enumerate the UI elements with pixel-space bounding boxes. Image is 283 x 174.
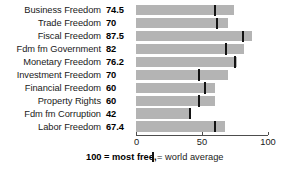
world-average-tick-icon — [214, 5, 216, 17]
row-label: Fdm fm Government — [17, 44, 101, 54]
row-label: Financial Freedom — [25, 83, 101, 93]
legend-most-free-note: 100 = most free, — [86, 152, 157, 163]
world-average-tick-icon — [189, 108, 191, 120]
axis-tick — [268, 132, 269, 135]
chart-row: Monetary Freedom76.2 — [0, 56, 283, 69]
axis-tick-label: 50 — [197, 137, 207, 147]
row-bar — [136, 44, 244, 54]
world-average-tick-icon — [204, 82, 206, 94]
row-bar-track — [136, 83, 268, 93]
row-value: 60 — [106, 83, 116, 93]
axis-tick-label: 100 — [260, 137, 276, 147]
row-label: Monetary Freedom — [23, 57, 101, 67]
row-bar-track — [136, 44, 268, 54]
row-bar — [136, 5, 234, 15]
row-bar-track — [136, 96, 268, 106]
x-axis: 050100 — [136, 135, 268, 136]
row-value: 60 — [106, 96, 116, 106]
row-label: Labor Freedom — [38, 122, 101, 132]
axis-tick — [202, 132, 203, 135]
row-value: 76.2 — [106, 57, 124, 67]
row-label: Business Freedom — [24, 5, 101, 15]
world-average-tick-icon — [214, 121, 216, 133]
world-average-tick-icon — [234, 56, 236, 68]
axis-tick-label: 0 — [134, 137, 139, 147]
world-average-tick-icon — [225, 43, 227, 55]
row-bar-track — [136, 70, 268, 80]
row-value: 42 — [106, 109, 116, 119]
chart-row: Fiscal Freedom87.5 — [0, 30, 283, 43]
row-bar-track — [136, 121, 268, 131]
row-value: 70 — [106, 18, 116, 28]
economic-freedom-bar-chart: Business Freedom74.5Trade Freedom70Fisca… — [0, 0, 283, 174]
legend-world-average-label: = world average — [157, 152, 223, 163]
row-value: 82 — [106, 44, 116, 54]
axis-tick — [136, 132, 137, 135]
row-bar-track — [136, 18, 268, 28]
chart-rows: Business Freedom74.5Trade Freedom70Fisca… — [0, 4, 283, 133]
chart-row: Financial Freedom60 — [0, 81, 283, 94]
row-bar-track — [136, 108, 268, 118]
chart-row: Property Rights60 — [0, 94, 283, 107]
chart-legend: 100 = most free, = world average — [0, 150, 283, 164]
row-bar — [136, 96, 215, 106]
chart-row: Labor Freedom67.4 — [0, 120, 283, 133]
legend-world-average-group: = world average — [152, 152, 224, 163]
row-bar — [136, 70, 228, 80]
world-average-tick-icon — [198, 69, 200, 81]
row-bar — [136, 108, 191, 118]
row-bar — [136, 31, 252, 41]
chart-row: Business Freedom74.5 — [0, 4, 283, 17]
row-bar-track — [136, 5, 268, 15]
row-value: 70 — [106, 70, 116, 80]
chart-row: Fdm fm Corruption42 — [0, 107, 283, 120]
row-label: Trade Freedom — [38, 18, 101, 28]
world-average-tick-icon — [152, 152, 154, 162]
row-bar-track — [136, 57, 268, 67]
row-label: Property Rights — [38, 96, 101, 106]
row-value: 74.5 — [106, 5, 124, 15]
world-average-tick-icon — [216, 18, 218, 30]
chart-row: Trade Freedom70 — [0, 17, 283, 30]
chart-row: Fdm fm Government82 — [0, 43, 283, 56]
row-label: Fdm fm Corruption — [24, 109, 101, 119]
row-label: Fiscal Freedom — [38, 31, 101, 41]
row-value: 87.5 — [106, 31, 124, 41]
row-bar — [136, 121, 225, 131]
row-value: 67.4 — [106, 122, 124, 132]
row-label: Investment Freedom — [17, 70, 101, 80]
world-average-tick-icon — [242, 31, 244, 43]
row-bar-track — [136, 31, 268, 41]
row-bar — [136, 57, 237, 67]
chart-row: Investment Freedom70 — [0, 69, 283, 82]
world-average-tick-icon — [198, 95, 200, 107]
